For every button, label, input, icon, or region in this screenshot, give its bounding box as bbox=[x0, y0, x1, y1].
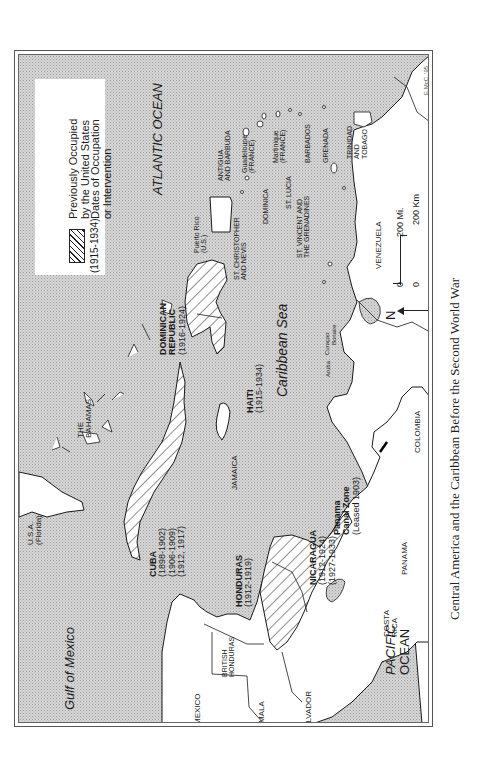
legend-dates-text: Dates of Occupationor Intervention bbox=[90, 119, 113, 219]
st-christopher-label: ST. CHRISTOPHERAND NEVIS bbox=[233, 217, 248, 280]
legend-dates-example: (1915-1934) bbox=[90, 219, 101, 273]
north-label: N bbox=[384, 311, 398, 320]
costa-rica-label: COSTARICA bbox=[383, 610, 400, 637]
cuba-label: CUBA (1898-1902)(1906-1909)(1912, 1917) bbox=[149, 526, 187, 577]
bonaire-label: Bonaire bbox=[331, 324, 337, 345]
caribbean-sea-label: Caribbean Sea bbox=[275, 304, 290, 397]
st-vincent-label: ST. VINCENT ANDTHE GRENADINES bbox=[296, 196, 311, 258]
jamaica-label: JAMAICA bbox=[231, 455, 239, 490]
north-arrowhead-icon bbox=[397, 307, 404, 315]
scale-miles-zero: 0 bbox=[396, 282, 405, 287]
antigua-label: ANTIGUAAND BARBUDA bbox=[217, 130, 232, 181]
grenada-label: GRENADA bbox=[322, 128, 329, 163]
scale-km-label: 200 Km bbox=[412, 194, 421, 225]
dominica-label: DOMINICA bbox=[262, 189, 269, 224]
trinidad-tobago-label: TRINIDADANDTOBAGO bbox=[346, 126, 368, 159]
map-area: Previously Occupiedby the United States … bbox=[18, 54, 429, 723]
scale-km-zero: 0 bbox=[412, 282, 421, 287]
legend-occupied-text: Previously Occupiedby the United States bbox=[68, 119, 91, 219]
aruba-label: Aruba bbox=[325, 361, 331, 377]
puerto-rico-label: Puerto Rico(U.S.) bbox=[193, 216, 208, 253]
guadeloupe-label: Guadeloupe(FRANCE) bbox=[241, 135, 256, 173]
map-frame: Previously Occupiedby the United States … bbox=[14, 50, 433, 727]
panama-canal-zone-label: PanamaCanal Zone(Leased 1903) bbox=[333, 477, 361, 535]
mexico-label: MEXICO bbox=[194, 693, 202, 723]
puerto-rico-island bbox=[210, 197, 232, 232]
map-caption: Central America and the Caribbean Before… bbox=[447, 278, 463, 620]
nicaragua-label: NICARAGUA(1912-1924)(1927-1933) bbox=[309, 530, 337, 585]
guatemala-label: GUATEMALA bbox=[258, 701, 266, 723]
colombia-label: COLOMBIA bbox=[414, 411, 422, 453]
panama-label: PANAMA bbox=[401, 542, 409, 575]
venezuela-label: VENEZUELA bbox=[375, 221, 383, 269]
british-honduras-label: BRITISHHONDURAS bbox=[221, 637, 236, 677]
gulf-of-mexico-label: Gulf of Mexico bbox=[63, 627, 77, 710]
bahamas-label: THEBAHAMAS bbox=[77, 399, 94, 438]
legend-hatch-swatch bbox=[69, 229, 85, 263]
atlantic-ocean-label: ATLANTIC OCEAN bbox=[151, 83, 165, 195]
el-salvador-label: EL SALVADOR bbox=[305, 691, 313, 723]
scale-miles-label: 200 Mi. bbox=[396, 207, 405, 237]
curacao-label: Curaçao bbox=[324, 332, 330, 355]
barbados-label: BARBADOS bbox=[304, 124, 311, 163]
martinique-label: Martinique(FRANCE) bbox=[272, 130, 287, 163]
haiti-label: HAITI(1915-1934) bbox=[246, 364, 265, 413]
st-lucia-label: ST. LUCIA bbox=[285, 176, 292, 209]
map-credit: E.McC. '95 bbox=[423, 66, 429, 95]
dominican-republic-label: DOMINICANREPUBLIC(1916-1924) bbox=[159, 303, 187, 355]
honduras-label: HONDURAS(1912-1919) bbox=[235, 555, 254, 607]
legend: Previously Occupiedby the United States … bbox=[35, 79, 105, 275]
usa-label: U.S.A.(Florida) bbox=[27, 515, 44, 545]
